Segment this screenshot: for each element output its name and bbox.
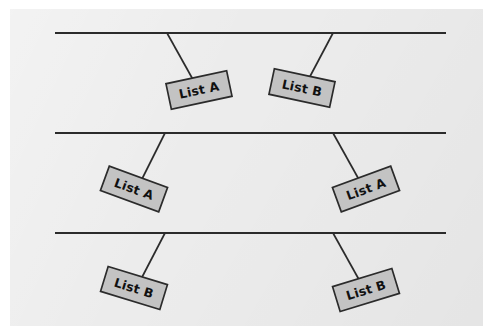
leader-line xyxy=(333,133,362,185)
node-list-a[interactable]: List A xyxy=(166,71,232,109)
node-list-a[interactable]: List A xyxy=(100,166,167,212)
leader-line xyxy=(333,233,362,285)
rows-group: List AList BList AList AList BList B xyxy=(55,33,446,311)
row-middle: List AList A xyxy=(55,133,446,212)
leader-line xyxy=(167,33,196,85)
diagram-canvas: List AList BList AList AList BList B xyxy=(0,0,497,335)
row-bottom: List BList B xyxy=(55,233,446,311)
leader-line xyxy=(139,133,165,185)
node-list-b[interactable]: List B xyxy=(333,269,400,312)
node-list-b[interactable]: List B xyxy=(269,69,335,107)
row-top: List AList B xyxy=(55,33,446,109)
node-list-a[interactable]: List A xyxy=(332,166,399,212)
diagram-svg: List AList BList AList AList BList B xyxy=(0,0,497,335)
leader-line xyxy=(139,233,165,283)
node-list-b[interactable]: List B xyxy=(101,267,168,310)
